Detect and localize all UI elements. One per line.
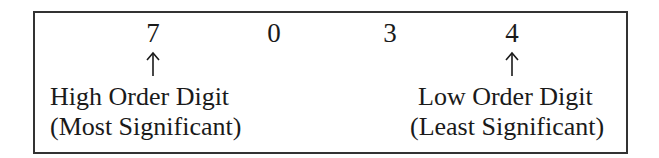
arrow-up-icon: [502, 50, 522, 78]
low-order-label: Low Order Digit: [418, 82, 593, 112]
least-significant-label: (Least Significant): [410, 112, 604, 142]
most-significant-label: (Most Significant): [50, 112, 241, 142]
high-order-label: High Order Digit: [50, 82, 229, 112]
arrow-up-icon: [143, 50, 163, 78]
digit-low: 4: [492, 18, 532, 48]
digit-2: 0: [254, 18, 294, 48]
digit-high: 7: [133, 18, 173, 48]
digit-3: 3: [370, 18, 410, 48]
